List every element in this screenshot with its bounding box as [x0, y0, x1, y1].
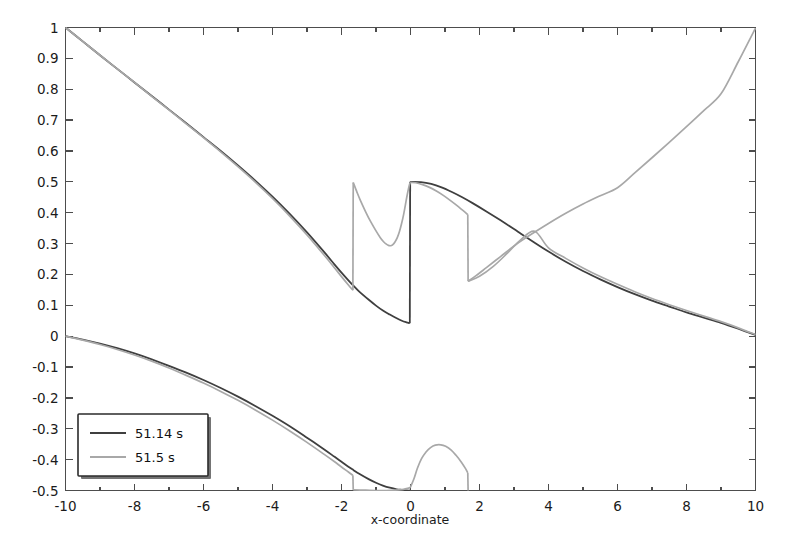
x-tick-label: 8	[682, 498, 691, 514]
x-tick-label: 10	[747, 498, 764, 514]
x-tick-label: -8	[128, 498, 141, 514]
x-axis-title: x-coordinate	[371, 512, 450, 527]
legend-label-1: 51.5 s	[135, 450, 175, 465]
x-tick-label: -10	[54, 498, 76, 514]
y-tick-label: 0	[50, 328, 59, 344]
y-tick-label: -0.4	[32, 452, 58, 468]
x-tick-label: 2	[475, 498, 484, 514]
figure-container: -10-8-6-4-20246810 -0.5-0.4-0.3-0.2-0.10…	[0, 0, 796, 550]
y-tick-label: -0.3	[32, 421, 58, 437]
line-chart: -10-8-6-4-20246810 -0.5-0.4-0.3-0.2-0.10…	[0, 0, 796, 550]
y-tick-label: 0.4	[37, 205, 58, 221]
y-tick-label: 0.8	[37, 81, 58, 97]
legend-label-0: 51.14 s	[135, 426, 183, 441]
legend-box	[78, 414, 208, 476]
y-tick-label: 0.1	[37, 297, 58, 313]
y-tick-label: 1	[50, 20, 59, 36]
x-tick-label: -6	[197, 498, 210, 514]
y-tick-label: 0.3	[37, 236, 58, 252]
x-tick-label: 4	[544, 498, 553, 514]
y-tick-label: -0.5	[32, 483, 58, 499]
y-tick-label: -0.2	[32, 390, 58, 406]
y-tick-label: 0.9	[37, 50, 58, 66]
y-tick-label: 0.7	[37, 112, 58, 128]
legend: 51.14 s51.5 s	[78, 414, 211, 479]
x-tick-label: 6	[613, 498, 622, 514]
y-tick-label: 0.5	[37, 174, 58, 190]
y-tick-label: 0.2	[37, 266, 58, 282]
x-tick-label: -2	[335, 498, 348, 514]
y-tick-label: 0.6	[37, 143, 58, 159]
x-tick-label: -4	[266, 498, 279, 514]
y-tick-label: -0.1	[32, 359, 58, 375]
